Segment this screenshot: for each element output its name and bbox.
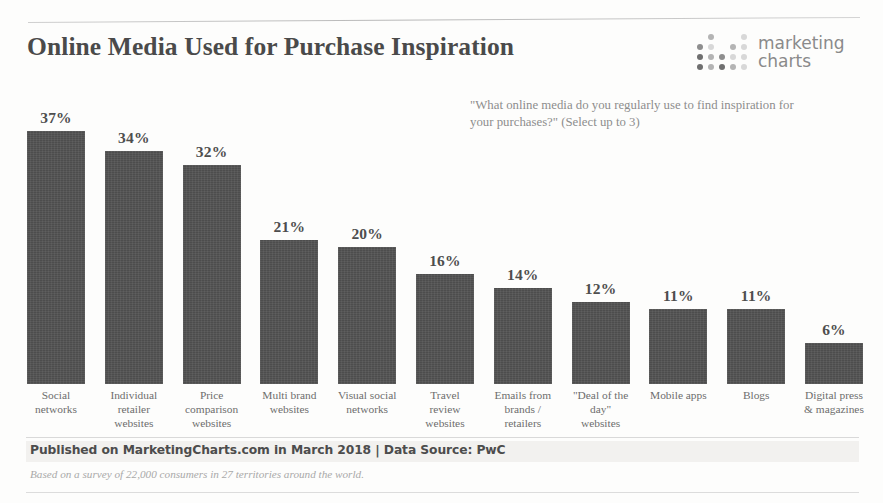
chart-header: Online Media Used for Purchase Inspirati… bbox=[0, 30, 883, 80]
category-label: Multi brandwebsites bbox=[258, 388, 320, 430]
category-label-line: Price bbox=[181, 388, 243, 402]
logo-line-1: marketing bbox=[758, 34, 845, 53]
category-label: Visual socialnetworks bbox=[336, 388, 398, 430]
bar-value-label: 11% bbox=[741, 287, 772, 305]
bar-value-label: 11% bbox=[663, 287, 694, 305]
bar bbox=[727, 309, 785, 384]
footer-publication: Published on MarketingCharts.com in Marc… bbox=[30, 443, 506, 457]
logo-line-2: charts bbox=[758, 52, 845, 71]
bar bbox=[805, 343, 863, 384]
plot-area: 37%34%32%21%20%16%14%12%11%11%6% bbox=[27, 84, 863, 384]
top-divider bbox=[28, 17, 860, 23]
chart-page: Online Media Used for Purchase Inspirati… bbox=[0, 0, 883, 503]
bar-slot: 34% bbox=[105, 84, 163, 384]
category-label-line: Digital press bbox=[803, 388, 865, 402]
category-label: Blogs bbox=[725, 388, 787, 430]
page-title: Online Media Used for Purchase Inspirati… bbox=[27, 32, 514, 62]
category-label: Travelreviewwebsites bbox=[414, 388, 476, 430]
bar-slot: 11% bbox=[727, 84, 785, 384]
category-label: Pricecomparisonwebsites bbox=[181, 388, 243, 430]
category-label-line: comparison bbox=[181, 402, 243, 416]
logo-wordmark: marketing charts bbox=[758, 34, 845, 71]
bar-value-label: 21% bbox=[274, 218, 306, 236]
category-label-line: Individual bbox=[103, 388, 165, 402]
category-label-line: Emails from bbox=[492, 388, 554, 402]
bar bbox=[260, 240, 318, 384]
bar bbox=[572, 302, 630, 384]
bottom-divider bbox=[26, 492, 859, 493]
category-label-line: Mobile apps bbox=[647, 388, 709, 402]
bar bbox=[105, 151, 163, 384]
bar-value-label: 6% bbox=[822, 321, 846, 339]
category-label-line: networks bbox=[336, 402, 398, 416]
category-label: Digital press& magazines bbox=[803, 388, 865, 430]
bar-slot: 14% bbox=[494, 84, 552, 384]
bar bbox=[338, 247, 396, 384]
bar-slot: 12% bbox=[572, 84, 630, 384]
footer-methodology-note: Based on a survey of 22,000 consumers in… bbox=[30, 468, 364, 480]
category-label-line: Multi brand bbox=[258, 388, 320, 402]
bar-value-label: 34% bbox=[118, 129, 150, 147]
bar bbox=[183, 165, 241, 384]
category-label: Socialnetworks bbox=[25, 388, 87, 430]
marketingcharts-logo: marketing charts bbox=[694, 32, 845, 72]
category-label-line: Social bbox=[25, 388, 87, 402]
category-label-line: brands / bbox=[492, 402, 554, 416]
category-label-line: websites bbox=[181, 416, 243, 430]
footer-divider bbox=[26, 437, 859, 438]
bar-slot: 20% bbox=[338, 84, 396, 384]
category-label-line: & magazines bbox=[803, 402, 865, 416]
bar-slot: 11% bbox=[649, 84, 707, 384]
bar-slot: 21% bbox=[260, 84, 318, 384]
bar bbox=[494, 288, 552, 384]
bar-value-label: 16% bbox=[429, 252, 461, 270]
category-label-line: review bbox=[414, 402, 476, 416]
bar-slot: 6% bbox=[805, 84, 863, 384]
category-label-line: websites bbox=[258, 402, 320, 416]
bar-value-label: 14% bbox=[507, 266, 539, 284]
category-label-line: Blogs bbox=[725, 388, 787, 402]
category-label-line: "Deal of the bbox=[570, 388, 632, 402]
category-label: "Deal of theday"websites bbox=[570, 388, 632, 430]
dot-matrix-logo-icon bbox=[694, 32, 749, 72]
bar-slot: 32% bbox=[183, 84, 241, 384]
bar bbox=[649, 309, 707, 384]
category-label-line: retailer bbox=[103, 402, 165, 416]
category-label: Individualretailerwebsites bbox=[103, 388, 165, 430]
category-label-line: networks bbox=[25, 402, 87, 416]
bar-value-label: 32% bbox=[196, 143, 228, 161]
category-label-line: websites bbox=[570, 416, 632, 430]
category-label-line: Visual social bbox=[336, 388, 398, 402]
category-axis: SocialnetworksIndividualretailerwebsites… bbox=[27, 388, 863, 430]
bar-series: 37%34%32%21%20%16%14%12%11%11%6% bbox=[27, 84, 863, 384]
category-label-line: retailers bbox=[492, 416, 554, 430]
bar-slot: 37% bbox=[27, 84, 85, 384]
bar-slot: 16% bbox=[416, 84, 474, 384]
category-label: Emails frombrands /retailers bbox=[492, 388, 554, 430]
category-label-line: websites bbox=[414, 416, 476, 430]
bar-value-label: 20% bbox=[351, 225, 383, 243]
category-label-line: websites bbox=[103, 416, 165, 430]
bar bbox=[27, 131, 85, 384]
bar-value-label: 12% bbox=[585, 280, 617, 298]
category-label-line: day" bbox=[570, 402, 632, 416]
category-label-line: Travel bbox=[414, 388, 476, 402]
bar bbox=[416, 274, 474, 384]
category-label: Mobile apps bbox=[647, 388, 709, 430]
bar-value-label: 37% bbox=[40, 109, 72, 127]
